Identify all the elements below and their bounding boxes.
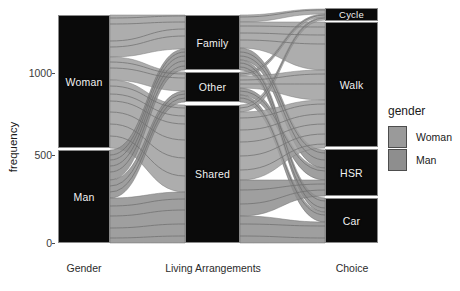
- legend-item-man[interactable]: Man: [388, 148, 452, 171]
- legend-title: gender: [388, 104, 452, 118]
- stratum-choice-hsr[interactable]: HSR: [325, 149, 378, 196]
- stratum-label-hsr: HSR: [340, 167, 363, 179]
- legend-swatch-woman: [388, 126, 407, 148]
- x-axis-label-choice: Choice: [316, 262, 388, 274]
- stratum-label-walk: Walk: [340, 79, 364, 91]
- flows-living-to-choice: [240, 9, 325, 243]
- legend: gender Woman Man: [388, 104, 452, 171]
- stratum-living-shared[interactable]: Shared: [185, 105, 240, 243]
- stratum-label-woman: Woman: [66, 76, 103, 88]
- legend-swatch-man: [388, 149, 407, 171]
- stratum-label-cycle: Cycle: [339, 9, 364, 20]
- stratum-label-family: Family: [196, 37, 228, 49]
- stratum-choice-walk[interactable]: Walk: [325, 22, 378, 147]
- stratum-gender-man[interactable]: Man: [58, 150, 110, 243]
- stratum-label-man: Man: [73, 191, 94, 203]
- x-axis-label-living-arrangements: Living Arrangements: [155, 262, 271, 274]
- x-axis-label-gender: Gender: [48, 262, 120, 274]
- stratum-choice-cycle[interactable]: Cycle: [325, 8, 378, 21]
- stratum-living-other[interactable]: Other: [185, 72, 240, 102]
- stratum-label-shared: Shared: [195, 168, 230, 180]
- stratum-label-car: Car: [343, 215, 361, 227]
- stratum-choice-car[interactable]: Car: [325, 198, 378, 243]
- stratum-living-family[interactable]: Family: [185, 15, 240, 70]
- legend-entries: Woman Man: [388, 125, 452, 171]
- stratum-label-other: Other: [199, 81, 226, 93]
- flows-gender-to-living: [110, 15, 185, 243]
- legend-item-woman[interactable]: Woman: [388, 125, 452, 148]
- legend-label-man: Man: [416, 154, 436, 166]
- alluvial-chart: frequency 1000 500 0: [0, 0, 460, 291]
- legend-label-woman: Woman: [416, 131, 452, 143]
- stratum-gender-woman[interactable]: Woman: [58, 15, 110, 148]
